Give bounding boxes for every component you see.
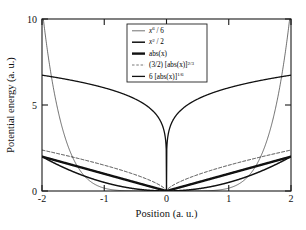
x-tick-label-2: 0 <box>164 193 169 204</box>
legend-entry-x2-label: x2 / 2 <box>148 38 164 47</box>
x-tick-label-0: -2 <box>38 193 46 204</box>
y-tick-label-2: 10 <box>27 14 37 25</box>
legend-entry-x6-label: x6 / 6 <box>148 26 164 35</box>
figure-container: -2 -1 0 1 2 0 5 10 Position (a. u.) Pote… <box>0 0 306 230</box>
potential-energy-chart: -2 -1 0 1 2 0 5 10 Position (a. u.) Pote… <box>0 0 306 230</box>
legend-entry-abs-label: abs(x) <box>149 50 168 58</box>
y-axis-label: Potential energy (a. u.) <box>5 57 17 153</box>
legend: x6 / 6x2 / 2abs(x)(3/2) [abs(x)]2/36 [ab… <box>127 24 207 82</box>
y-tick-label-0: 0 <box>32 186 37 197</box>
x-tick-label-4: 2 <box>289 193 294 204</box>
x-tick-label-1: -1 <box>100 193 108 204</box>
y-tick-label-1: 5 <box>32 100 37 111</box>
x-axis-label: Position (a. u.) <box>136 208 198 220</box>
x-tick-label-3: 1 <box>226 193 231 204</box>
